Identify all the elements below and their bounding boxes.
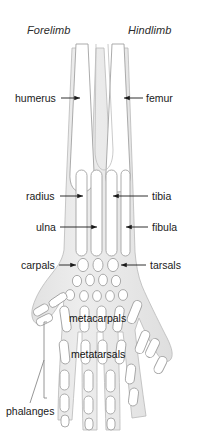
carpal-bone [93,291,102,302]
label-carpals: carpals [21,259,55,271]
phalanx-bone [61,415,69,427]
tarsal-bone [106,291,115,302]
phalanx-bone [84,370,93,392]
carpal-bone [78,258,89,271]
label-metacarpals: metacarpals [69,312,126,324]
phalanges-leader [30,360,44,403]
ulna-bone [91,170,102,256]
hindlimb-header: Hindlimb [128,24,172,36]
label-ulna: ulna [36,221,56,233]
forelimb-header: Forelimb [27,24,71,36]
phalanx-bone [107,418,115,430]
label-phalanges: phalanges [6,405,54,417]
phalanx-bone [84,396,93,414]
label-humerus: humerus [15,92,56,104]
bracket-line [44,322,47,398]
tarsal-bone [108,258,119,271]
label-femur: femur [146,92,173,104]
phalanx-bone [106,370,115,392]
diagram-canvas: Forelimb Hindlimb humerus femur radius t… [0,0,198,442]
phalanx-bone [85,418,93,430]
radius-bone [76,170,87,256]
carpal-bone [80,291,89,302]
label-tibia: tibia [152,190,171,202]
phalanx-bone [60,394,69,412]
label-metatarsals: metatarsals [71,348,125,360]
label-tarsals: tarsals [150,259,181,271]
carpal-bone [72,275,81,286]
carpal-bone [93,258,103,271]
label-radius: radius [26,190,55,202]
tarsal-bone [118,290,127,301]
phalanges-bracket [30,322,47,403]
carpal-bone [86,274,95,286]
phalanx-bone [153,355,169,375]
tarsal-bone [111,275,120,286]
phalanx-bone [60,370,69,390]
label-fibula: fibula [152,221,177,233]
fibula-bone [121,170,130,256]
phalanx-bone [106,396,115,414]
phalanx-bone [128,388,139,407]
tarsal-bone [99,274,108,286]
metatarsal-bone [59,340,70,365]
tibia-bone [106,170,117,256]
